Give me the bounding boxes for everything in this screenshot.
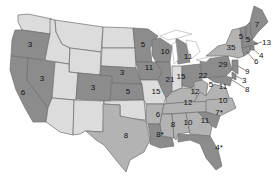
lake-superior bbox=[160, 30, 192, 40]
label-WV: 5 bbox=[209, 80, 214, 89]
label-MN: 5 bbox=[141, 40, 146, 49]
label-FL: 4* bbox=[215, 143, 223, 152]
label-KS: 5 bbox=[126, 87, 131, 96]
label-WI: 10 bbox=[161, 47, 170, 56]
label-CO: 3 bbox=[91, 83, 96, 92]
label-NV: 3 bbox=[40, 74, 45, 83]
state-AZ bbox=[46, 98, 74, 135]
label-VA: 11 bbox=[219, 82, 228, 91]
state-WY bbox=[69, 48, 101, 75]
label-PA: 29 bbox=[219, 60, 228, 69]
leader-CT bbox=[247, 52, 254, 60]
label-NJ: 9 bbox=[245, 67, 250, 76]
label-MA: 13 bbox=[262, 38, 271, 47]
label-IL: 21 bbox=[166, 75, 175, 84]
label-NE: 3 bbox=[120, 68, 125, 77]
label-OH: 22 bbox=[199, 71, 208, 80]
label-NC: 10 bbox=[219, 96, 228, 105]
label-ME: 7 bbox=[255, 20, 260, 29]
label-OR: 3 bbox=[28, 40, 33, 49]
label-TX: 8 bbox=[124, 131, 129, 140]
state-NJ bbox=[232, 60, 238, 74]
label-KY: 12 bbox=[191, 87, 200, 96]
label-RI: 4 bbox=[259, 51, 264, 60]
label-CT: 6 bbox=[254, 57, 259, 66]
label-DE: 3 bbox=[242, 76, 247, 85]
label-SC: 7* bbox=[215, 108, 223, 117]
label-NH: 5 bbox=[246, 35, 251, 44]
label-GA: 11 bbox=[201, 116, 210, 125]
state-DE bbox=[232, 72, 236, 80]
label-MD: 8 bbox=[245, 85, 250, 94]
label-AR: 6 bbox=[156, 110, 161, 119]
label-AL: 10 bbox=[184, 118, 193, 127]
label-CA: 6 bbox=[21, 88, 26, 97]
label-TN: 12 bbox=[184, 98, 193, 107]
label-IA: 11 bbox=[145, 63, 154, 72]
us-map: 3 6 3 3 3 5 8 5 11 15 6 8* 10 21 11 15 2… bbox=[0, 0, 273, 178]
label-MO: 15 bbox=[152, 87, 161, 96]
leader-NJ bbox=[238, 66, 245, 70]
state-SD bbox=[101, 48, 136, 68]
label-NY: 35 bbox=[227, 43, 236, 52]
label-VT: 5 bbox=[239, 32, 244, 41]
label-MS: 8 bbox=[171, 120, 176, 129]
state-ND bbox=[102, 27, 135, 48]
state-NM bbox=[73, 100, 104, 135]
label-MI: 11 bbox=[184, 52, 193, 61]
label-LA: 8* bbox=[156, 130, 164, 139]
label-IN: 15 bbox=[177, 72, 186, 81]
